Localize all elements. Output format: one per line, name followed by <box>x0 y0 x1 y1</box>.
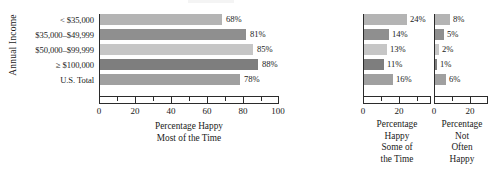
bar-value-label: 13% <box>390 44 406 55</box>
x-tick-minor <box>381 97 382 101</box>
bar <box>364 14 407 25</box>
x-axis-baseline <box>363 103 431 104</box>
x-tick-minor <box>117 97 118 101</box>
bar-value-label: 85% <box>257 44 273 55</box>
clipped-title-remnant <box>188 0 234 3</box>
x-tick-major <box>399 97 400 103</box>
x-tick-minor <box>261 97 262 101</box>
bar <box>364 29 389 40</box>
x-tick-major <box>207 97 208 103</box>
bar-value-label: 24% <box>410 14 426 25</box>
bar-value-label: 78% <box>244 74 260 85</box>
x-tick-label: 20 <box>387 106 411 116</box>
x-tick-label: 60 <box>195 106 219 116</box>
x-axis-title: Percentage Not Often Happy <box>410 119 488 165</box>
bar-value-label: 81% <box>250 29 266 40</box>
bar-value-label: 8% <box>453 14 464 25</box>
bar <box>435 29 444 40</box>
category-label: ≥ $100,000 <box>56 59 94 71</box>
bar <box>100 59 258 70</box>
x-tick-label: 40 <box>159 106 183 116</box>
x-tick-minor <box>417 97 418 101</box>
x-tick-major <box>171 97 172 103</box>
x-axis-title-line: Most of the Time <box>89 133 289 145</box>
x-tick-minor <box>225 97 226 101</box>
category-label: $35,000–$49,999 <box>35 29 94 41</box>
x-tick-label: 20 <box>123 106 147 116</box>
x-axis-baseline <box>434 103 488 104</box>
bar <box>364 59 384 70</box>
category-label: $50,000–$99,999 <box>35 44 94 56</box>
x-tick-minor <box>189 97 190 101</box>
x-tick-major <box>363 97 364 103</box>
x-axis-title-line: Often <box>410 142 488 154</box>
x-axis-title-line: Percentage Happy <box>89 121 289 133</box>
bar-value-label: 6% <box>449 74 460 85</box>
category-label-column: < $35,000 $35,000–$49,999 $50,000–$99,99… <box>6 14 96 92</box>
x-axis-line <box>363 96 431 97</box>
x-tick-minor <box>452 97 453 101</box>
bar-value-label: 16% <box>396 74 412 85</box>
x-tick-label: 0 <box>87 106 111 116</box>
x-tick-major <box>243 97 244 103</box>
bar-value-label: 68% <box>226 14 242 25</box>
x-tick-label: 100 <box>266 106 290 116</box>
figure-canvas: Annual Income < $35,000 $35,000–$49,999 … <box>0 0 488 192</box>
bar <box>435 74 446 85</box>
bar-value-label: 5% <box>447 29 458 40</box>
x-tick-minor <box>153 97 154 101</box>
x-axis-title-line: Not <box>410 131 488 143</box>
bar <box>435 14 450 25</box>
bar-value-label: 2% <box>442 44 453 55</box>
bar <box>364 44 387 55</box>
x-axis-right-cap <box>430 96 431 104</box>
x-axis-title-line: Percentage <box>410 119 488 131</box>
x-axis-title: Percentage Happy Most of the Time <box>89 121 289 144</box>
bar <box>100 29 246 40</box>
x-tick-major <box>434 97 435 103</box>
x-tick-major <box>470 97 471 103</box>
x-axis-title-line: Happy <box>410 154 488 166</box>
bar-value-label: 14% <box>392 29 408 40</box>
x-tick-label: 0 <box>351 106 375 116</box>
bar <box>364 74 393 85</box>
x-axis-line <box>434 96 488 97</box>
category-label: < $35,000 <box>60 14 94 26</box>
x-tick-label: 20 <box>458 106 482 116</box>
x-tick-label: 0 <box>422 106 446 116</box>
x-tick-major <box>135 97 136 103</box>
bar-value-label: 11% <box>387 59 402 70</box>
bar <box>100 74 240 85</box>
bar-value-label: 1% <box>440 59 451 70</box>
x-tick-label: 80 <box>231 106 255 116</box>
category-label: U.S. Total <box>60 74 94 86</box>
bar <box>435 59 437 70</box>
x-tick-major <box>99 97 100 103</box>
x-axis-baseline <box>99 103 279 104</box>
x-tick-major <box>278 97 279 103</box>
bar-value-label: 88% <box>262 59 278 70</box>
bar <box>100 14 222 25</box>
bar <box>435 44 439 55</box>
bar <box>100 44 253 55</box>
